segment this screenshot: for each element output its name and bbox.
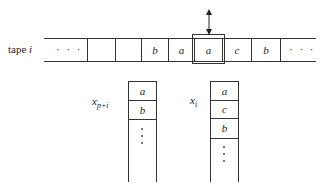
stack-divider [128,100,157,101]
tape-head-frame [192,34,225,64]
stack-continuation-icon [140,128,144,149]
stack-label-xi: xi [190,95,197,109]
tape-cell: b [142,45,168,56]
stack-cell: a [211,86,238,97]
stack-continuation-icon [222,146,226,167]
stack-label-sub: p+i [97,101,109,110]
tape-divider [280,38,281,62]
stack-right-border [238,81,239,182]
tape-cell-ellipsis-right: · · · [289,44,316,55]
tape-top-border [44,38,316,39]
tape-cell: a [169,45,194,56]
stack-divider [128,119,157,120]
stack-label-xpi: xp+i [92,96,109,110]
stack-label-sub: i [195,100,197,109]
stack-right-border [156,81,157,182]
stack-cell: a [129,86,156,97]
stack-top-border [128,81,157,82]
tape-label-prefix: tape [8,43,26,55]
stack-top-border [210,81,239,82]
tape-bottom-border [44,61,316,62]
stack-divider [210,100,239,101]
tape-cell: c [223,45,251,56]
stack-cell: c [211,104,238,115]
tape-label-var: i [29,43,32,55]
tape-label: tape i [8,44,32,55]
stack-cell: b [211,123,238,134]
head-move-arrow-icon [204,9,214,35]
stack-divider [210,118,239,119]
stack-divider [210,138,239,139]
tape-cell: b [252,45,280,56]
tape-divider [87,38,88,62]
tape-divider [115,38,116,62]
stack-cell: b [129,105,156,116]
tape-cell-ellipsis-left: · · · [56,44,83,55]
